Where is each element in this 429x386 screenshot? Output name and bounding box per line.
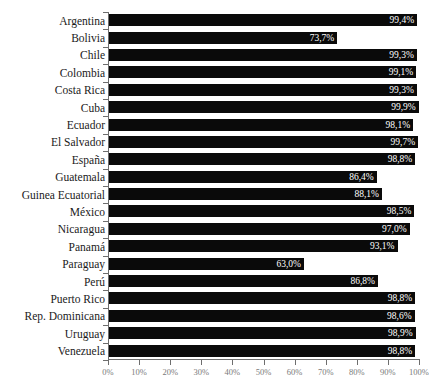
- y-axis-tick: [103, 47, 109, 48]
- x-axis-tick: [201, 360, 202, 365]
- bar-track: 98,8%: [108, 153, 419, 165]
- bar-track: 99,4%: [108, 14, 419, 26]
- x-axis-tick: [419, 360, 420, 365]
- x-axis-tick-label: 70%: [318, 367, 334, 377]
- x-axis-tick-label: 100%: [409, 367, 429, 377]
- bar-row: Argentina99,4%: [0, 12, 429, 29]
- bar-row: Guinea Ecuatorial88,1%: [0, 186, 429, 203]
- bar[interactable]: 99,3%: [108, 49, 417, 61]
- category-label: Nicaragua: [58, 223, 105, 235]
- bar-track: 63,0%: [108, 258, 419, 270]
- bar-value-label: 99,4%: [390, 15, 415, 25]
- bar-row: Chile99,3%: [0, 47, 429, 64]
- bar-row: España98,8%: [0, 151, 429, 168]
- x-axis-tick-label: 10%: [131, 367, 147, 377]
- category-label: Guinea Ecuatorial: [22, 189, 105, 201]
- y-axis-tick: [103, 12, 109, 13]
- y-axis-tick: [103, 308, 109, 309]
- y-axis-tick: [103, 290, 109, 291]
- category-label: Guatemala: [55, 171, 105, 183]
- y-axis-tick: [103, 116, 109, 117]
- x-axis-tick: [388, 360, 389, 365]
- bar[interactable]: 98,8%: [108, 292, 415, 304]
- bar-value-label: 88,1%: [354, 189, 379, 199]
- bar-value-label: 98,9%: [388, 328, 413, 338]
- bar-row: Guatemala86,4%: [0, 169, 429, 186]
- x-axis-tick-label: 50%: [256, 367, 272, 377]
- bar[interactable]: 98,1%: [108, 119, 413, 131]
- y-axis-tick: [103, 343, 109, 344]
- bar[interactable]: 99,1%: [108, 66, 416, 78]
- chart-title-remnant: [0, 0, 429, 7]
- bar-track: 73,7%: [108, 32, 419, 44]
- category-label: Rep. Dominicana: [25, 310, 105, 322]
- y-axis-tick: [103, 64, 109, 65]
- bar-row: México98,5%: [0, 203, 429, 220]
- category-label: Uruguay: [65, 328, 105, 340]
- bar[interactable]: 98,8%: [108, 153, 415, 165]
- bar-track: 99,3%: [108, 84, 419, 96]
- bar-track: 99,9%: [108, 101, 419, 113]
- bar-track: 97,0%: [108, 223, 419, 235]
- x-axis-tick-label: 40%: [225, 367, 241, 377]
- x-axis-tick-label: 80%: [349, 367, 365, 377]
- bar-track: 88,1%: [108, 188, 419, 200]
- bar-track: 98,9%: [108, 327, 419, 339]
- bar-value-label: 97,0%: [382, 224, 407, 234]
- bar-track: 98,8%: [108, 345, 419, 357]
- bar-value-label: 98,1%: [386, 120, 411, 130]
- bar-track: 93,1%: [108, 240, 419, 252]
- bar[interactable]: 99,7%: [108, 136, 418, 148]
- bar-row: Costa Rica99,3%: [0, 82, 429, 99]
- y-axis-tick: [103, 29, 109, 30]
- bar-row: Bolivia73,7%: [0, 29, 429, 46]
- x-axis-tick: [295, 360, 296, 365]
- category-label: Panamá: [69, 241, 105, 253]
- bar[interactable]: 97,0%: [108, 223, 410, 235]
- bar[interactable]: 73,7%: [108, 32, 337, 44]
- bar-track: 98,1%: [108, 119, 419, 131]
- category-label: Ecuador: [67, 119, 105, 131]
- category-label: Perú: [84, 276, 105, 288]
- bar[interactable]: 99,4%: [108, 14, 417, 26]
- bar-rows: Argentina99,4%Bolivia73,7%Chile99,3%Colo…: [0, 12, 429, 360]
- x-axis-tick: [170, 360, 171, 365]
- bar[interactable]: 93,1%: [108, 240, 398, 252]
- bar-chart: Argentina99,4%Bolivia73,7%Chile99,3%Colo…: [0, 0, 429, 386]
- bar-row: Panamá93,1%: [0, 238, 429, 255]
- bar-row: Uruguay98,9%: [0, 325, 429, 342]
- bar-value-label: 98,8%: [388, 293, 413, 303]
- y-axis-tick: [103, 273, 109, 274]
- bar-row: Cuba99,9%: [0, 99, 429, 116]
- y-axis-tick: [103, 151, 109, 152]
- category-label: Costa Rica: [55, 84, 105, 96]
- bar-row: El Salvador99,7%: [0, 134, 429, 151]
- bar[interactable]: 99,3%: [108, 84, 417, 96]
- bar-track: 86,8%: [108, 275, 419, 287]
- bar-track: 98,8%: [108, 292, 419, 304]
- category-label: España: [72, 154, 105, 166]
- bar-row: Colombia99,1%: [0, 64, 429, 81]
- bar-track: 98,5%: [108, 205, 419, 217]
- bar-track: 99,3%: [108, 49, 419, 61]
- bar[interactable]: 98,8%: [108, 345, 415, 357]
- category-label: Venezuela: [58, 345, 105, 357]
- bar[interactable]: 98,6%: [108, 310, 415, 322]
- plot-area: Argentina99,4%Bolivia73,7%Chile99,3%Colo…: [0, 12, 429, 360]
- bar[interactable]: 99,9%: [108, 101, 419, 113]
- bar[interactable]: 86,8%: [108, 275, 378, 287]
- category-label: Paraguay: [62, 258, 105, 270]
- bar[interactable]: 98,9%: [108, 327, 416, 339]
- bar[interactable]: 63,0%: [108, 258, 304, 270]
- bar[interactable]: 88,1%: [108, 188, 382, 200]
- category-label: Argentina: [59, 15, 105, 27]
- bar-value-label: 86,8%: [350, 276, 375, 286]
- y-axis-tick: [103, 186, 109, 187]
- bar-value-label: 99,1%: [389, 67, 414, 77]
- bar-value-label: 98,6%: [387, 311, 412, 321]
- category-label: Chile: [80, 49, 105, 61]
- y-axis-tick: [103, 256, 109, 257]
- bar[interactable]: 86,4%: [108, 171, 377, 183]
- bar[interactable]: 98,5%: [108, 205, 414, 217]
- x-axis-tick-label: 30%: [194, 367, 210, 377]
